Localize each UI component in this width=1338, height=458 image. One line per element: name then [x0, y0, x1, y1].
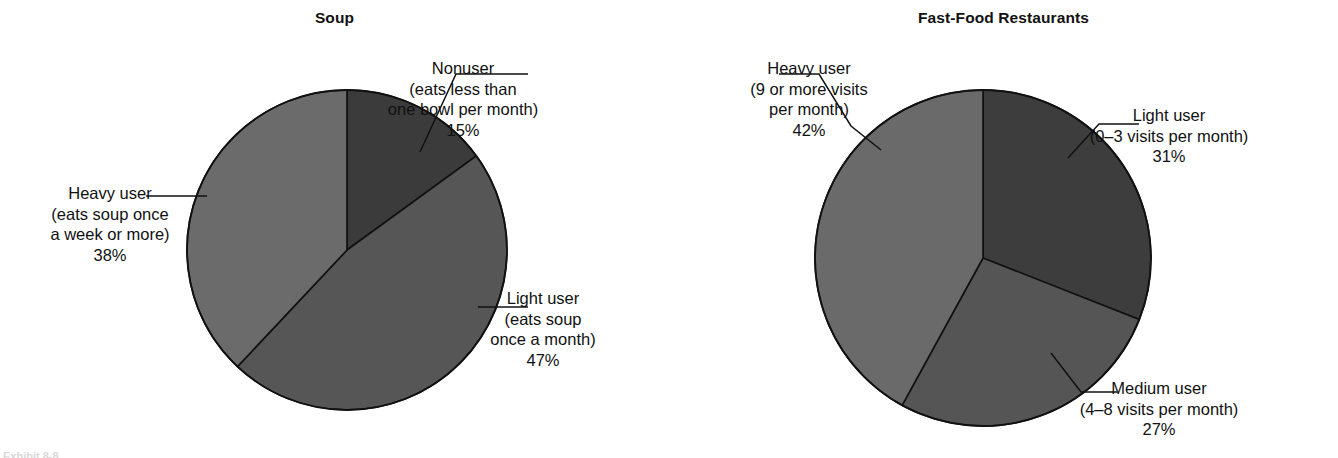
- pie-label-soup-nonuser: Nonuser (eats less than one bowl per mon…: [338, 58, 588, 140]
- pie-label-soup-heavy-user: Heavy user (eats soup once a week or mor…: [0, 183, 220, 265]
- pie-label-line: (9 or more visits: [750, 80, 867, 98]
- chart-panel-fast-food: Fast-Food Restaurants Heavy user (9 or m…: [669, 0, 1338, 458]
- pie-label-line: Medium user: [1111, 379, 1206, 397]
- pie-label-line: Heavy user: [767, 59, 850, 77]
- pie-label-ff-light-user: Light user (0–3 visits per month) 31%: [1019, 105, 1319, 167]
- pie-label-soup-light-user: Light user (eats soup once a month) 47%: [437, 288, 649, 370]
- pie-label-percent: 47%: [437, 350, 649, 371]
- pie-label-line: (eats soup: [504, 310, 581, 328]
- pie-label-line: per month): [769, 100, 849, 118]
- pie-label-ff-heavy-user: Heavy user (9 or more visits per month) …: [694, 58, 924, 140]
- pie-label-line: Light user: [507, 289, 579, 307]
- figure-caption-fragment: Exhibit 8-8: [3, 449, 59, 458]
- pie-label-ff-medium-user: Medium user (4–8 visits per month) 27%: [1004, 378, 1314, 440]
- figure-two-pie-charts: Soup Nonuser (eats less than one bowl pe…: [0, 0, 1338, 458]
- pie-label-line: (0–3 visits per month): [1090, 127, 1249, 145]
- pie-label-line: (4–8 visits per month): [1080, 400, 1239, 418]
- pie-label-line: Heavy user: [68, 184, 151, 202]
- pie-label-line: one bowl per month): [388, 100, 538, 118]
- pie-label-percent: 31%: [1019, 146, 1319, 167]
- pie-label-line: Nonuser: [432, 59, 494, 77]
- pie-label-percent: 27%: [1004, 419, 1314, 440]
- pie-label-line: (eats less than: [409, 80, 516, 98]
- pie-label-line: once a month): [490, 330, 595, 348]
- chart-panel-soup: Soup Nonuser (eats less than one bowl pe…: [0, 0, 669, 458]
- pie-label-percent: 15%: [338, 120, 588, 141]
- pie-label-line: Light user: [1133, 106, 1205, 124]
- pie-label-line: a week or more): [50, 225, 169, 243]
- pie-label-line: (eats soup once: [51, 205, 168, 223]
- pie-label-percent: 38%: [0, 245, 220, 266]
- pie-label-percent: 42%: [694, 120, 924, 141]
